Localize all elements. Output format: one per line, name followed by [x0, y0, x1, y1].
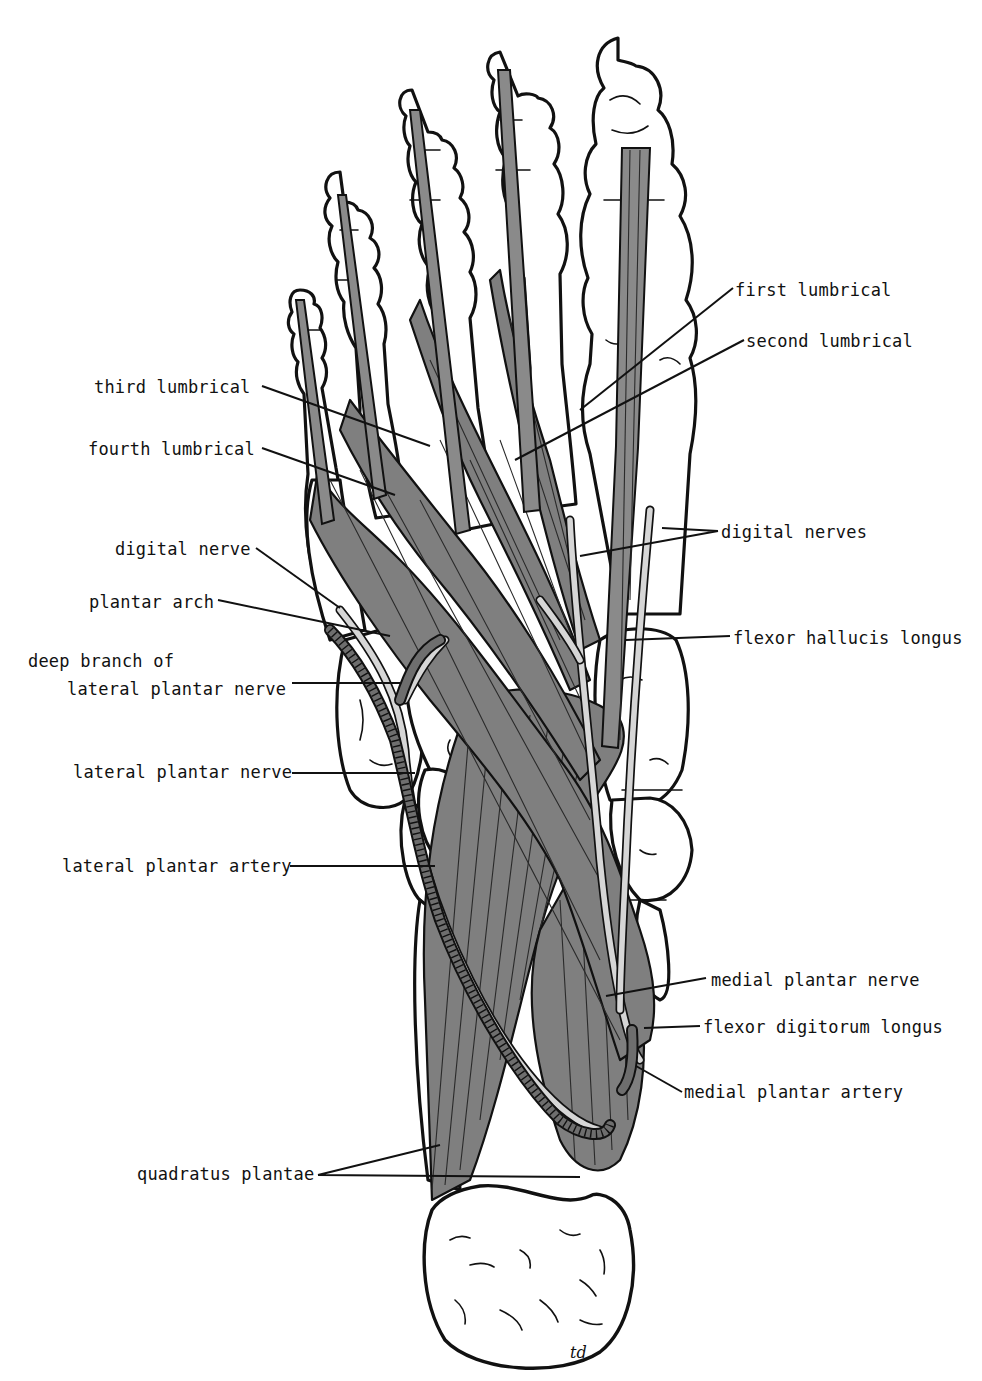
label-lateral-plantar-nerve: lateral plantar nerve — [73, 762, 292, 782]
label-fourth-lumbrical: fourth lumbrical — [88, 439, 255, 459]
label-medial-plantar-nerve: medial plantar nerve — [711, 970, 920, 990]
label-digital-nerves: digital nerves — [721, 522, 867, 542]
artist-signature: td — [570, 1343, 587, 1362]
label-deep-branch-line2: lateral plantar nerve — [67, 679, 286, 699]
calcaneus-bone — [424, 1186, 633, 1369]
label-digital-nerve: digital nerve — [115, 539, 251, 559]
label-first-lumbrical: first lumbrical — [735, 280, 892, 300]
label-third-lumbrical: third lumbrical — [94, 377, 251, 397]
label-quadratus-plantae: quadratus plantae — [137, 1164, 314, 1184]
label-flexor-digitorum-longus: flexor digitorum longus — [703, 1017, 943, 1037]
label-flexor-hallucis-longus: flexor hallucis longus — [733, 628, 963, 648]
label-deep-branch-line1: deep branch of — [28, 651, 174, 671]
label-lateral-plantar-artery: lateral plantar artery — [62, 856, 292, 876]
label-second-lumbrical: second lumbrical — [746, 331, 913, 351]
label-plantar-arch: plantar arch — [89, 592, 214, 612]
label-medial-plantar-artery: medial plantar artery — [684, 1082, 903, 1102]
